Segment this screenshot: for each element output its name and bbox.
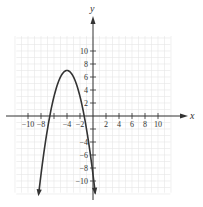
x-axis-arrow-icon	[180, 114, 188, 119]
x-tick-label: 4	[117, 120, 121, 129]
x-tick-label: 2	[104, 120, 108, 129]
x-tick-label: −4	[63, 120, 72, 129]
y-tick-label: 8	[84, 60, 88, 69]
y-tick-label: 10	[80, 47, 88, 56]
x-tick-label: 8	[143, 120, 147, 129]
x-tick-label: 6	[130, 120, 134, 129]
x-tick-label: −2	[76, 120, 85, 129]
y-axis-arrow-icon	[91, 16, 96, 24]
x-tick-label: −10	[22, 120, 35, 129]
y-tick-label: −4	[79, 138, 88, 147]
y-tick-label: −10	[75, 177, 88, 186]
curve-arrow-icon	[37, 189, 42, 196]
y-tick-label: 2	[84, 99, 88, 108]
axes	[6, 16, 188, 200]
parabola-graph: −10−8−4−2246810−10−8−6−4246810 x y	[0, 0, 203, 207]
y-tick-label: 6	[84, 73, 88, 82]
x-tick-label: 10	[154, 120, 162, 129]
x-tick-label: −8	[37, 120, 46, 129]
x-axis-label: x	[189, 110, 195, 121]
y-axis-label: y	[89, 3, 95, 14]
y-tick-label: −8	[79, 164, 88, 173]
y-tick-label: −6	[79, 151, 88, 160]
y-tick-label: 4	[84, 86, 88, 95]
